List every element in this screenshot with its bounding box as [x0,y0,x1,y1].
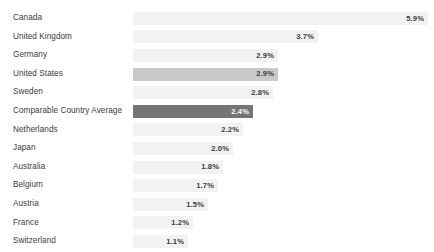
bar-track: 1.2% [133,214,193,233]
bar-value-label: 1.1% [166,238,184,246]
category-label: Netherlands [13,121,58,140]
category-label: France [13,214,39,233]
horizontal-bar-chart: Canada5.9%United Kingdom3.7%Germany2.9%U… [0,0,434,252]
bar-value-label: 5.9% [406,15,424,23]
bar: 5.9% [133,12,428,25]
bar: 1.1% [133,235,188,248]
bar-value-label: 2.9% [256,70,274,78]
chart-row: Australia1.8% [0,158,434,177]
bar: 1.2% [133,216,193,229]
bar: 2.8% [133,86,273,99]
chart-row: Japan2.0% [0,139,434,158]
category-label: Canada [13,9,42,28]
bar: 1.7% [133,179,218,192]
bar: 3.7% [133,30,318,43]
category-label: Austria [13,195,39,214]
bar: 1.5% [133,198,208,211]
chart-row: Belgium1.7% [0,176,434,195]
bar-track: 1.7% [133,176,218,195]
bar-value-label: 1.2% [171,219,189,227]
category-label: Japan [13,139,36,158]
bar-track: 1.8% [133,158,223,177]
bar-track: 2.9% [133,46,278,65]
bar: 2.4% [133,105,253,118]
bar: 1.8% [133,161,223,174]
bar-track: 2.4% [133,102,253,121]
bar-track: 2.8% [133,83,273,102]
bar-value-label: 2.8% [251,89,269,97]
bar-value-label: 2.0% [211,145,229,153]
bar: 2.9% [133,68,278,81]
bar-track: 2.9% [133,65,278,84]
chart-row: Netherlands2.2% [0,121,434,140]
chart-row: Canada5.9% [0,9,434,28]
bar-track: 1.1% [133,232,188,251]
category-label: Comparable Country Average [13,102,122,121]
bar: 2.2% [133,123,243,136]
category-label: Switzerland [13,232,56,251]
category-label: Germany [13,46,47,65]
chart-row: Comparable Country Average2.4% [0,102,434,121]
chart-row: Switzerland1.1% [0,232,434,251]
chart-row: Sweden2.8% [0,83,434,102]
category-label: Belgium [13,176,43,195]
bar-track: 5.9% [133,9,428,28]
bar-value-label: 1.7% [196,182,214,190]
category-label: United Kingdom [13,28,72,47]
bar-track: 3.7% [133,28,318,47]
bar: 2.9% [133,49,278,62]
bar: 2.0% [133,142,233,155]
category-label: Australia [13,158,45,177]
bar-value-label: 2.4% [231,108,249,116]
chart-row: Austria1.5% [0,195,434,214]
bar-value-label: 1.8% [201,163,219,171]
chart-row: United States2.9% [0,65,434,84]
bar-value-label: 1.5% [186,201,204,209]
chart-row: United Kingdom3.7% [0,28,434,47]
chart-row: France1.2% [0,214,434,233]
bar-track: 2.0% [133,139,233,158]
category-label: Sweden [13,83,43,102]
category-label: United States [13,65,63,84]
bar-value-label: 3.7% [296,33,314,41]
bar-track: 2.2% [133,121,243,140]
chart-row: Germany2.9% [0,46,434,65]
bar-value-label: 2.2% [221,126,239,134]
bar-value-label: 2.9% [256,52,274,60]
bar-track: 1.5% [133,195,208,214]
